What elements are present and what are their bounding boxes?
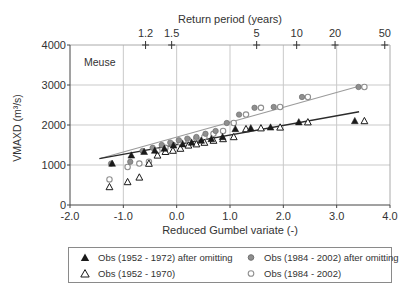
marker-triangle-open: [136, 174, 143, 180]
marker-circle-filled: [236, 112, 241, 117]
legend-label: Obs (1952 - 1972) after omitting: [98, 252, 233, 263]
marker-triangle-open: [106, 183, 113, 189]
station-label: Meuse: [84, 56, 116, 68]
marker-circle-filled: [271, 104, 276, 109]
marker-circle-filled: [224, 120, 229, 125]
y-axis-title: VMAXD (m³/s): [11, 94, 23, 162]
marker-circle-open: [125, 164, 130, 169]
marker-circle-open: [243, 112, 248, 117]
marker-circle-filled: [185, 136, 190, 141]
marker-circle-open: [107, 177, 112, 182]
return-period-tick-label: 5: [254, 27, 260, 39]
marker-circle-filled: [203, 131, 208, 136]
circle-filled-glyph: [248, 255, 254, 261]
marker-triangle-filled: [232, 125, 239, 131]
marker-circle-filled: [252, 105, 257, 110]
legend-item: Obs (1952 - 1970): [69, 265, 235, 281]
legend-label: Obs (1984 - 2002) after omitting: [264, 252, 399, 263]
x-tick-label: 0.0: [169, 210, 184, 222]
circle-open-icon: [245, 267, 257, 279]
triangle-filled-icon: [79, 251, 91, 263]
return-period-tick-label: 50: [379, 27, 391, 39]
y-tick-label: 4000: [36, 39, 66, 51]
x-tick-label: -1.0: [114, 210, 133, 222]
marker-triangle-open: [361, 117, 368, 123]
marker-circle-filled: [356, 84, 361, 89]
gumbel-plot-figure: Return period (years) Meuse Reduced Gumb…: [0, 0, 406, 294]
marker-circle-open: [231, 120, 236, 125]
circle-open-glyph: [248, 271, 254, 277]
marker-circle-open: [305, 94, 310, 99]
x-axis-title: Reduced Gumbel variate (-): [70, 224, 390, 236]
return-period-tick-label: 1.5: [164, 27, 179, 39]
marker-triangle-filled: [247, 125, 254, 131]
y-tick-label: 0: [36, 199, 66, 211]
circle-filled-icon: [245, 251, 257, 263]
x-tick-label: 3.0: [329, 210, 344, 222]
legend: Obs (1952 - 1972) after omittingObs (198…: [68, 247, 392, 283]
marker-circle-filled: [213, 128, 218, 133]
x-tick-label: -2.0: [61, 210, 80, 222]
legend-item: Obs (1984 - 2002) after omitting: [235, 249, 399, 265]
marker-triangle-filled: [351, 117, 358, 123]
legend-label: Obs (1984 - 2002): [264, 268, 341, 279]
legend-label: Obs (1952 - 1970): [98, 268, 175, 279]
marker-triangle-open: [258, 125, 265, 131]
x-tick-label: 2.0: [276, 210, 291, 222]
marker-circle-filled: [299, 94, 304, 99]
x-tick-label: 4.0: [382, 210, 397, 222]
triangle-open-icon: [79, 267, 91, 279]
y-tick-label: 2000: [36, 119, 66, 131]
return-period-tick-label: 1.2: [138, 27, 153, 39]
marker-circle-filled: [128, 159, 133, 164]
y-tick-label: 1000: [36, 159, 66, 171]
marker-circle-open: [258, 105, 263, 110]
legend-item: Obs (1984 - 2002): [235, 265, 399, 281]
marker-circle-filled: [176, 138, 181, 143]
marker-triangle-open: [124, 178, 131, 184]
triangle-open-glyph: [81, 270, 89, 277]
return-period-tick-label: 20: [329, 27, 341, 39]
marker-circle-open: [277, 104, 282, 109]
triangle-filled-glyph: [81, 254, 89, 261]
marker-circle-open: [137, 161, 142, 166]
trend-1952-1970: [99, 112, 359, 159]
marker-circle-filled: [194, 134, 199, 139]
marker-circle-open: [362, 84, 367, 89]
y-tick-label: 3000: [36, 79, 66, 91]
x-tick-label: 1.0: [222, 210, 237, 222]
marker-circle-open: [220, 128, 225, 133]
legend-item: Obs (1952 - 1972) after omitting: [69, 249, 235, 265]
return-period-tick-label: 10: [291, 27, 303, 39]
